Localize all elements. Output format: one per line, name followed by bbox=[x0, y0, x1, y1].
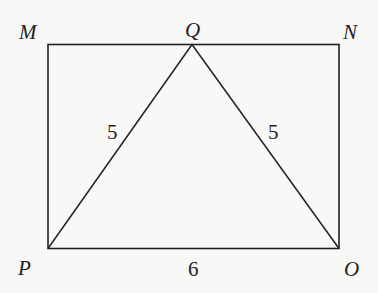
vertex-label-m: M bbox=[19, 22, 37, 43]
length-label-po: 6 bbox=[188, 259, 199, 280]
geometry-diagram: M Q N P O 5 5 6 bbox=[0, 0, 378, 293]
vertex-label-p: P bbox=[18, 258, 31, 279]
rectangle-mnop bbox=[48, 45, 339, 249]
vertex-label-n: N bbox=[343, 22, 357, 43]
segment-pq bbox=[48, 45, 192, 249]
vertex-label-o: O bbox=[344, 259, 359, 280]
diagram-figure bbox=[0, 0, 378, 293]
length-label-pq: 5 bbox=[107, 122, 118, 143]
length-label-qo: 5 bbox=[268, 122, 279, 143]
segment-qo bbox=[192, 45, 339, 249]
vertex-label-q: Q bbox=[185, 20, 200, 41]
